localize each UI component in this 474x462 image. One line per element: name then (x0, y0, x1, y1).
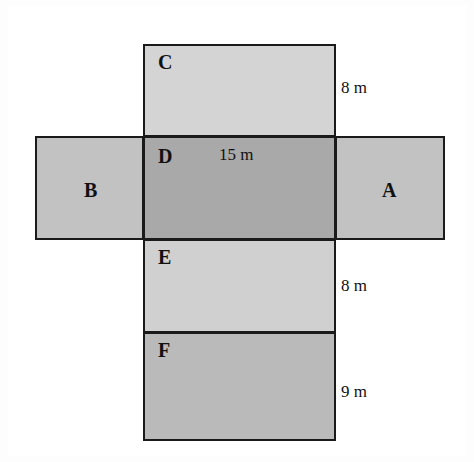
dimension-label-bottom: 9 m (341, 383, 367, 400)
dimension-label-top: 8 m (341, 79, 367, 96)
paper-background: C B D A E F 8 m 15 m 8 m 9 m (8, 6, 466, 456)
face-label-d: D (158, 146, 172, 166)
net-face-f (143, 332, 336, 441)
face-label-f: F (158, 340, 170, 360)
dimension-label-lower: 8 m (341, 277, 367, 294)
face-label-c: C (158, 52, 172, 72)
net-face-e (143, 239, 336, 333)
face-label-e: E (158, 247, 171, 267)
face-label-a: A (382, 180, 396, 200)
dimension-label-middle: 15 m (219, 146, 253, 163)
diagram-canvas: C B D A E F 8 m 15 m 8 m 9 m (0, 0, 474, 462)
face-label-b: B (84, 180, 97, 200)
